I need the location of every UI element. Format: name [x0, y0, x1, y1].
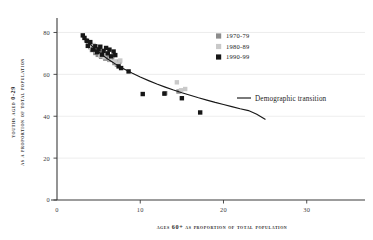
scatter-chart: 0102030 020406080 Ages 60+ as proportion… — [0, 0, 373, 240]
axis-ticks — [54, 32, 307, 203]
data-point — [113, 53, 117, 57]
x-tick-label: 0 — [55, 206, 58, 213]
data-point — [86, 44, 90, 48]
x-tick-label: 10 — [137, 206, 144, 213]
data-point — [98, 45, 102, 49]
legend-label: 1990-99 — [226, 53, 249, 60]
data-point — [183, 87, 187, 91]
data-point — [107, 47, 111, 51]
x-tick-label: 20 — [220, 206, 227, 213]
chart-figure: 0102030 020406080 Ages 60+ as proportion… — [0, 0, 373, 240]
y-tick-label: 40 — [43, 113, 50, 120]
x-tick-labels: 0102030 — [55, 206, 310, 213]
data-point — [109, 54, 113, 58]
y-tick-label: 20 — [43, 155, 50, 162]
legend-swatch — [216, 33, 221, 38]
y-axis-title-line-1: Youths aged 0-29 — [9, 86, 16, 138]
legend-curve-entry: Demographic transition — [237, 95, 327, 103]
data-point — [175, 80, 179, 84]
x-tick-label: 30 — [303, 206, 310, 213]
data-point — [141, 92, 145, 96]
data-point — [180, 96, 184, 100]
legend-swatch — [216, 44, 221, 49]
y-tick-label: 60 — [43, 71, 50, 78]
data-point — [162, 91, 166, 95]
data-point — [198, 110, 202, 114]
y-tick-label: 80 — [43, 29, 50, 36]
legend-label: 1970-79 — [226, 32, 249, 39]
legend-label: 1980-89 — [226, 43, 249, 50]
data-points-group — [81, 33, 203, 114]
legend-swatch — [216, 54, 221, 59]
data-point — [118, 58, 122, 62]
x-axis-title: Ages 60+ as proportion of total populati… — [157, 223, 288, 230]
y-tick-labels: 020406080 — [43, 29, 50, 204]
legend: 1970-791980-891990-99 — [216, 32, 249, 60]
legend-curve-label: Demographic transition — [255, 95, 327, 103]
y-tick-label: 0 — [47, 196, 50, 203]
y-axis-title-line-2: as a proportion of total population — [18, 58, 25, 166]
